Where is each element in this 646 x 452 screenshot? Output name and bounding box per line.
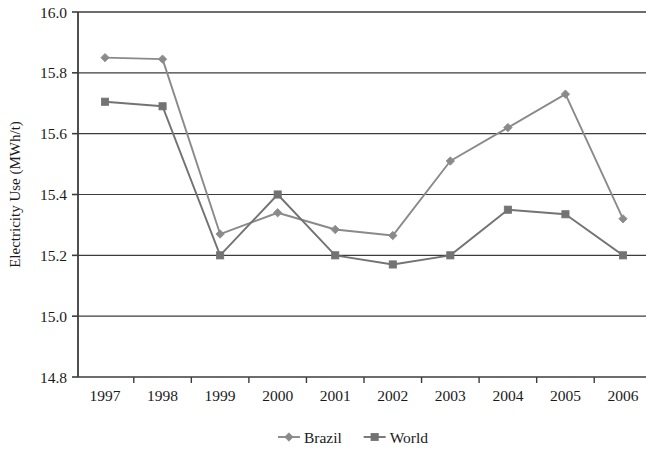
y-axis-tick-label: 15.4 (40, 186, 67, 203)
data-point-marker (371, 433, 378, 440)
x-axis-tick-label: 2003 (435, 387, 466, 404)
x-axis-tick-label: 2000 (262, 387, 293, 404)
x-axis-tick-label: 1998 (147, 387, 178, 404)
y-axis-tick-label: 15.2 (40, 247, 67, 264)
data-point-marker (619, 252, 626, 259)
data-point-marker (101, 98, 108, 105)
legend-label: Brazil (304, 429, 342, 446)
data-point-marker (447, 252, 454, 259)
electricity-use-line-chart: 16.015.815.615.415.215.014.8 19971998199… (0, 0, 646, 452)
data-point-marker (274, 191, 281, 198)
y-axis-tick-label: 15.6 (40, 125, 67, 142)
y-axis-tick-label: 15.8 (40, 64, 67, 81)
x-axis-tick-label: 2004 (492, 387, 523, 404)
y-axis-tick-label: 15.0 (40, 308, 67, 325)
data-point-marker (332, 252, 339, 259)
y-axis-title: Electricity Use (MWh/t) (7, 121, 24, 268)
data-point-marker (504, 206, 511, 213)
x-axis-tick-label: 1997 (90, 387, 121, 404)
x-axis-tick-label: 2002 (377, 387, 408, 404)
x-axis-tick-label: 2001 (320, 387, 351, 404)
x-axis-tick-label: 1999 (205, 387, 236, 404)
x-axis-tick-label: 2006 (608, 387, 639, 404)
data-point-marker (159, 103, 166, 110)
chart-container: 16.015.815.615.415.215.014.8 19971998199… (0, 0, 646, 452)
legend-label: World (390, 429, 429, 446)
y-axis-tick-label: 14.8 (40, 369, 67, 386)
data-point-marker (389, 261, 396, 268)
y-axis-tick-label: 16.0 (40, 4, 67, 21)
data-point-marker (562, 211, 569, 218)
data-point-marker (217, 252, 224, 259)
x-axis-tick-label: 2005 (550, 387, 581, 404)
